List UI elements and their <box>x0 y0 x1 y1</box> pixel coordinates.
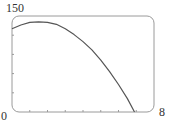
plot-area <box>0 0 169 134</box>
plot-frame <box>12 16 154 112</box>
x-axis-max-label: 8 <box>159 106 165 118</box>
origin-label: 0 <box>1 110 7 122</box>
data-curve <box>12 22 135 112</box>
chart: 150 0 8 <box>0 0 169 134</box>
y-axis-max-label: 150 <box>6 2 24 14</box>
